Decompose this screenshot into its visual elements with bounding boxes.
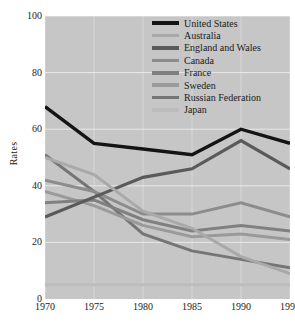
legend-swatch-icon: [152, 83, 179, 87]
legend-swatch-icon: [152, 46, 179, 50]
legend-label: Canada: [184, 55, 214, 66]
legend-swatch-icon: [152, 96, 179, 100]
legend-item[interactable]: Japan: [152, 104, 292, 116]
x-tick-label: 1990: [219, 301, 263, 312]
legend-swatch-icon: [152, 21, 179, 25]
x-tick-label: 1995: [268, 301, 295, 312]
legend-label: England and Wales: [184, 42, 261, 53]
legend-label: Japan: [184, 104, 207, 115]
legend-item[interactable]: France: [152, 67, 292, 79]
legend: United StatesAustraliaEngland and WalesC…: [152, 17, 292, 116]
y-axis-tick-labels: 020406080100: [0, 0, 42, 330]
legend-swatch-icon: [152, 108, 179, 112]
x-tick-label: 1985: [170, 301, 214, 312]
y-tick-label: 80: [4, 68, 42, 78]
legend-item[interactable]: Canada: [152, 54, 292, 66]
x-tick-label: 1980: [121, 301, 165, 312]
legend-item[interactable]: Russian Federation: [152, 91, 292, 103]
legend-label: Russian Federation: [184, 92, 261, 103]
y-tick-label: 60: [4, 124, 42, 134]
legend-swatch-icon: [152, 59, 179, 63]
x-tick-label: 1970: [23, 301, 67, 312]
legend-item[interactable]: United States: [152, 17, 292, 29]
x-tick-label: 1975: [72, 301, 116, 312]
legend-label: France: [184, 67, 211, 78]
line-chart-figure: Rates 020406080100 United StatesAustrali…: [0, 0, 295, 330]
legend-item[interactable]: England and Wales: [152, 42, 292, 54]
legend-label: Australia: [184, 30, 221, 41]
legend-label: United States: [184, 18, 238, 29]
x-axis-tick-labels: 197019751980198519901995: [0, 301, 295, 317]
legend-swatch-icon: [152, 34, 179, 38]
y-tick-label: 100: [4, 11, 42, 21]
legend-item[interactable]: Australia: [152, 29, 292, 41]
legend-label: Sweden: [184, 80, 216, 91]
legend-swatch-icon: [152, 71, 179, 75]
clipped-caption: [45, 322, 295, 330]
y-tick-label: 20: [4, 237, 42, 247]
legend-item[interactable]: Sweden: [152, 79, 292, 91]
y-tick-label: 40: [4, 181, 42, 191]
